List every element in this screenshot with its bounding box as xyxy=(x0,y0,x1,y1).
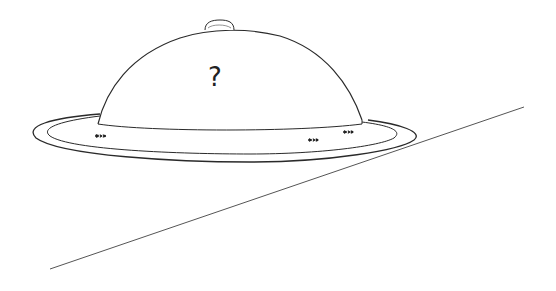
ant-icon xyxy=(343,130,354,134)
table-edge-line xyxy=(50,107,524,269)
question-mark-label: ? xyxy=(208,64,222,90)
cloche-dome xyxy=(98,20,362,130)
ant-icon xyxy=(95,134,106,138)
cloche-drawing xyxy=(0,0,556,291)
illustration-scene: ? xyxy=(0,0,556,291)
ant-icon xyxy=(308,138,319,142)
